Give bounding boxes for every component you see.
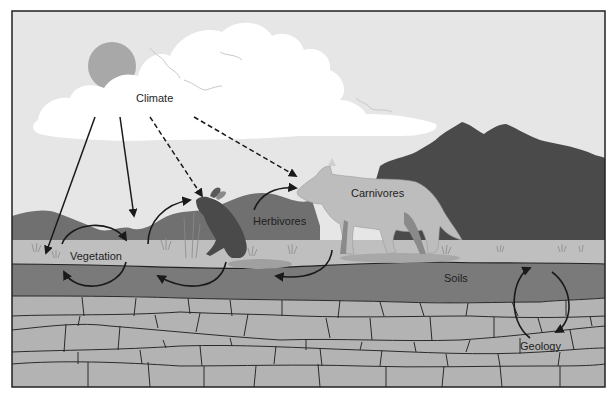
label-climate: Climate (136, 93, 173, 104)
label-geology: Geology (520, 341, 561, 352)
ecosystem-diagram (0, 0, 616, 395)
rock-layer (12, 296, 605, 387)
label-vegetation: Vegetation (70, 251, 122, 262)
label-carnivores: Carnivores (351, 188, 404, 199)
label-herbivores: Herbivores (253, 216, 306, 227)
label-soils: Soils (444, 273, 468, 284)
